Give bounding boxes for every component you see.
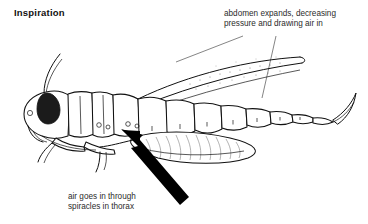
- midleg: [84, 142, 115, 172]
- thorax: [68, 92, 140, 138]
- figure-canvas: Inspiration abdomen expands, decreasing …: [0, 0, 368, 224]
- hind-tibia: [100, 140, 133, 147]
- cercus: [333, 93, 356, 124]
- antenna: [44, 54, 62, 94]
- grasshopper-illustration: [0, 0, 368, 224]
